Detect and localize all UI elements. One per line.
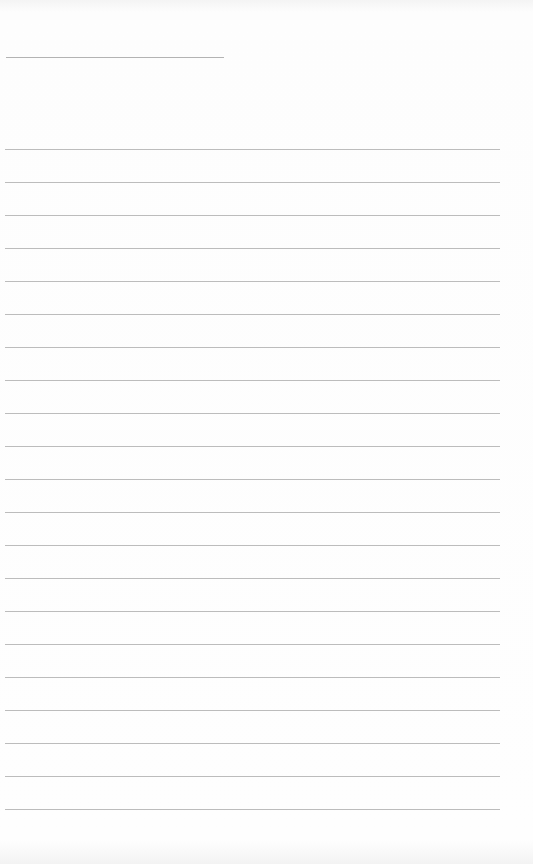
- ruled-line: [5, 512, 500, 513]
- ruled-line: [5, 314, 500, 315]
- ruled-line: [5, 710, 500, 711]
- ruled-line: [5, 281, 500, 282]
- ruled-line: [5, 182, 500, 183]
- ruled-line: [5, 149, 500, 150]
- ruled-line: [5, 578, 500, 579]
- ruled-line: [5, 479, 500, 480]
- ruled-line: [5, 413, 500, 414]
- header-name-line: [6, 57, 224, 58]
- ruled-line: [5, 248, 500, 249]
- ruled-line: [5, 809, 500, 810]
- ruled-line: [5, 446, 500, 447]
- ruled-line: [5, 545, 500, 546]
- ruled-line: [5, 347, 500, 348]
- ruled-line: [5, 743, 500, 744]
- ruled-line: [5, 215, 500, 216]
- ruled-line: [5, 611, 500, 612]
- ruled-line: [5, 677, 500, 678]
- ruled-line: [5, 644, 500, 645]
- lined-paper-sheet: [0, 0, 533, 864]
- ruled-line: [5, 776, 500, 777]
- ruled-line: [5, 380, 500, 381]
